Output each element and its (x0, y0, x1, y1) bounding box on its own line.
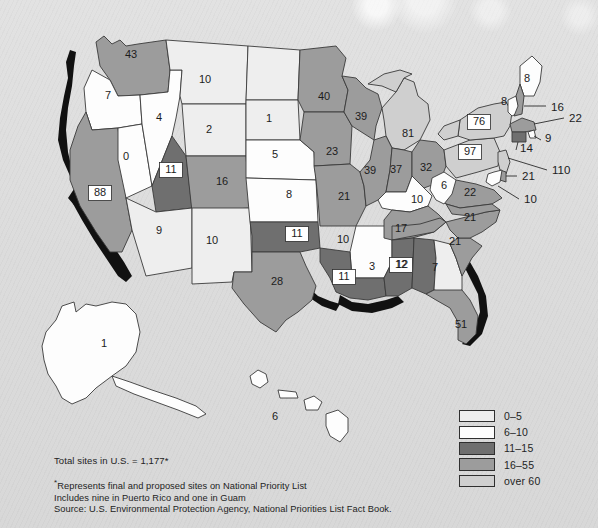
state-value-MI: 81 (402, 127, 414, 139)
state-value-AK: 1 (101, 337, 107, 349)
footnote-2: Includes nine in Puerto Rico and one in … (54, 493, 474, 505)
state-value-GA: 7 (432, 261, 438, 273)
leader-line-NJ (508, 158, 547, 170)
state-value-CO: 16 (216, 175, 228, 187)
state-value-WA: 43 (125, 48, 137, 60)
state-HI4 (326, 410, 348, 442)
state-value-NC: 21 (464, 211, 476, 223)
state-KS (246, 178, 318, 222)
map-footnotes: Total sites in U.S. = 1,177* *Represents… (54, 455, 474, 516)
state-value-IL: 39 (364, 164, 376, 176)
state-shapes-west (70, 36, 252, 284)
footnote-3: Source: U.S. Environmental Protection Ag… (54, 504, 474, 516)
state-MA (510, 118, 536, 132)
state-value-OR: 7 (105, 89, 111, 101)
state-value-NH: 16 (551, 101, 564, 113)
legend-row: 16–55 (459, 457, 540, 473)
state-value-TN: 17 (395, 222, 407, 234)
state-value-MO: 21 (338, 190, 350, 202)
state-value-TX: 28 (271, 275, 283, 287)
state-value-KY: 10 (411, 193, 423, 205)
legend-label: 11–15 (504, 442, 533, 454)
legend-row: 6–10 (459, 424, 540, 440)
state-value-WY: 2 (206, 123, 212, 135)
state-value-ND: 1 (266, 112, 272, 124)
state-value-MD: 10 (524, 193, 537, 205)
state-value-AZ: 9 (156, 224, 162, 236)
state-value-IN: 37 (390, 163, 402, 175)
state-value-PA: 97 (464, 145, 476, 157)
state-value-SD: 5 (272, 148, 278, 160)
state-value-VT: 8 (501, 95, 507, 107)
legend-swatch (459, 426, 495, 439)
state-value-KS: 10 (337, 233, 349, 245)
legend-label: over 60 (504, 475, 540, 487)
state-value-WI: 39 (355, 110, 367, 122)
legend-label: 16–55 (504, 459, 534, 471)
state-value-AR: 3 (369, 260, 375, 272)
state-WY (182, 104, 246, 156)
state-value-CA: 88 (94, 186, 106, 198)
state-value-ID: 4 (156, 111, 162, 123)
state-OK (250, 222, 320, 252)
state-value-FL: 51 (455, 318, 467, 330)
state-value-MA: 22 (569, 112, 582, 124)
state-value-NY: 76 (473, 115, 485, 127)
footnote-1-text: Represents final and proposed sites on N… (57, 481, 307, 491)
state-value-NV: 0 (123, 150, 129, 162)
state-value-HI: 6 (272, 410, 278, 422)
state-value-RI: 9 (545, 132, 551, 144)
map-legend: 0–56–1011–1516–55over 60 (459, 408, 540, 489)
state-ND (246, 46, 300, 100)
legend-row: over 60 (459, 473, 540, 489)
state-value-WV: 6 (441, 179, 447, 191)
state-value-ME: 8 (524, 72, 530, 84)
legend-swatch (459, 442, 495, 455)
legend-label: 0–5 (504, 410, 522, 422)
state-value-SC: 21 (449, 235, 461, 247)
leader-line-MA (534, 118, 564, 124)
state-value-UT: 11 (165, 163, 176, 175)
state-value-MN: 40 (318, 90, 330, 102)
state-CT (512, 132, 526, 142)
state-value-NM: 10 (206, 234, 218, 246)
total-sites-note: Total sites in U.S. = 1,177* (54, 455, 474, 466)
state-HI1 (250, 370, 268, 388)
state-value-OK: 11 (291, 227, 302, 239)
state-value-IA: 23 (326, 145, 338, 157)
state-HI3 (304, 396, 322, 410)
state-shapes-noncontig (42, 302, 348, 442)
state-NE (246, 140, 316, 180)
legend-swatch (459, 410, 495, 423)
state-SD (246, 100, 300, 140)
state-AK-tail (112, 376, 206, 418)
state-value-LA: 11 (338, 270, 349, 282)
leader-line-CT (516, 142, 518, 150)
legend-row: 11–15 (459, 440, 540, 456)
state-value-AL: 12 (396, 258, 408, 270)
state-value-VA: 22 (464, 186, 476, 198)
state-MD (486, 170, 502, 186)
state-FL (426, 290, 478, 344)
legend-swatch (459, 475, 495, 488)
state-HI2 (278, 390, 298, 398)
state-value-MT: 10 (199, 73, 211, 85)
state-value-OH: 32 (420, 161, 432, 173)
legend-row: 0–5 (459, 408, 540, 424)
footnote-1: *Represents final and proposed sites on … (54, 477, 474, 493)
legend-label: 6–10 (504, 426, 528, 438)
state-value-NJ: 110 (552, 164, 570, 176)
legend-swatch (459, 458, 495, 471)
state-value-CT: 14 (520, 142, 533, 154)
state-value-DE: 21 (522, 170, 535, 182)
state-NY-w (438, 120, 460, 140)
state-value-NE: 8 (286, 188, 292, 200)
